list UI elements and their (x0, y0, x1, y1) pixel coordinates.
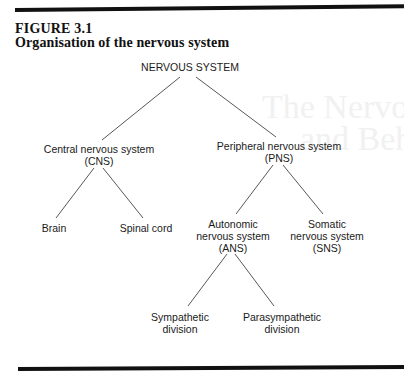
node-label: Spinal cord (120, 222, 173, 234)
edge-ans-sympathetic (188, 254, 227, 306)
node-label: Peripheral nervous system (217, 140, 341, 152)
node-label-2: division (243, 323, 321, 335)
node-cns: Central nervous system (CNS) (44, 143, 154, 167)
node-label-2: division (151, 323, 209, 335)
node-abbrev: (ANS) (196, 242, 270, 254)
node-label: Central nervous system (44, 143, 154, 155)
node-parasympathetic-division: Parasympathetic division (243, 311, 321, 335)
node-spinal-cord: Spinal cord (120, 222, 173, 234)
edge-ans-parasympathetic (235, 254, 274, 306)
node-label: Brain (42, 222, 67, 234)
node-label: Parasympathetic (243, 311, 321, 323)
node-nervous-system: NERVOUS SYSTEM (141, 61, 239, 73)
node-brain: Brain (42, 222, 67, 234)
node-abbrev: (PNS) (217, 152, 341, 164)
node-abbrev: (SNS) (290, 242, 364, 254)
edge-pns-ans (236, 165, 273, 214)
node-pns: Peripheral nervous system (PNS) (217, 140, 341, 164)
node-label: Somatic (290, 218, 364, 230)
edge-root-cns (102, 77, 180, 140)
node-label-2: nervous system (196, 230, 270, 242)
edge-root-pns (196, 77, 276, 137)
node-abbrev: (CNS) (44, 155, 154, 167)
node-label: Autonomic (196, 218, 270, 230)
node-sns: Somatic nervous system (SNS) (290, 218, 364, 254)
node-ans: Autonomic nervous system (ANS) (196, 218, 270, 254)
node-label-2: nervous system (290, 230, 364, 242)
edge-pns-sns (283, 165, 323, 214)
node-sympathetic-division: Sympathetic division (151, 311, 209, 335)
node-label: NERVOUS SYSTEM (141, 61, 239, 73)
node-label: Sympathetic (151, 311, 209, 323)
edge-cns-spinal-cord (103, 168, 143, 218)
edge-cns-brain (56, 168, 94, 218)
